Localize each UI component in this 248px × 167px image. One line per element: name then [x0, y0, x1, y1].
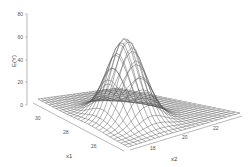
- mesh-line: [41, 99, 132, 146]
- mesh-line: [70, 42, 173, 133]
- x2-axis-label: x2: [171, 156, 178, 162]
- z-axis-label: E(Y): [11, 55, 17, 67]
- x1-tick-28: 28: [63, 129, 69, 135]
- x2-tick-22: 22: [213, 125, 219, 131]
- z-tick-0: 0: [20, 102, 23, 108]
- x1-axis-label: x1: [66, 153, 73, 159]
- mesh-line: [60, 54, 159, 137]
- x1-tick-26: 26: [91, 143, 97, 149]
- z-tick-40: 40: [17, 57, 23, 63]
- mesh-line: [67, 39, 169, 135]
- z-tick-20: 20: [17, 79, 23, 85]
- surface-plot: 0 20 40 60 80 E(Y) 30 28 26 x1 18 20 22 …: [0, 0, 248, 167]
- z-tick-80: 80: [17, 11, 23, 17]
- x1-tick-30: 30: [35, 115, 41, 121]
- mesh-line: [128, 113, 240, 147]
- z-axis-ticks: 0 20 40 60 80: [17, 11, 27, 108]
- x2-tick-20: 20: [182, 134, 188, 140]
- z-tick-60: 60: [17, 34, 23, 40]
- mesh-line: [38, 99, 128, 147]
- x2-tick-18: 18: [150, 145, 156, 151]
